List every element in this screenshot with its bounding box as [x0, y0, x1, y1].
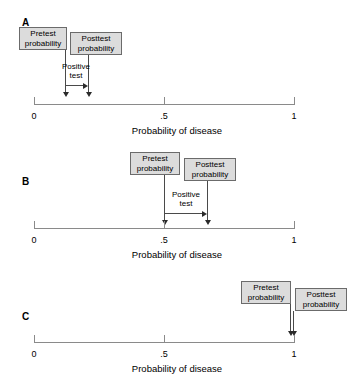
panel-b-pretest-box: Pretest probability — [130, 152, 180, 175]
panel-c-tick-label-0: 0 — [24, 350, 44, 359]
panel-c-posttest-box: Posttest probability — [295, 288, 347, 311]
panel-c-pretest-leader — [290, 304, 291, 334]
posttest-label-line1: Posttest — [71, 34, 121, 44]
panel-b-tick-1 — [294, 221, 295, 228]
pretest-label-line2: probability — [20, 39, 66, 49]
pretest-label-line1: Pretest — [20, 29, 66, 39]
panel-c-tick-label-1: 1 — [284, 350, 304, 359]
panel-a-tick-1 — [294, 97, 295, 104]
panel-a-tick-label-half: .5 — [154, 112, 174, 121]
posttest-label-line2: probability — [296, 300, 346, 310]
positive-test-line1: Positive — [46, 62, 106, 71]
posttest-label-line2: probability — [185, 170, 235, 180]
panel-a-positive-test-arrowhead — [83, 83, 88, 89]
panel-c-pretest-box: Pretest probability — [241, 281, 291, 304]
panel-b-tick-label-0: 0 — [24, 236, 44, 245]
panel-c-tick-0 — [34, 335, 35, 342]
panel-a-tick-label-0: 0 — [24, 112, 44, 121]
pretest-label-line1: Pretest — [131, 154, 179, 164]
panel-b: B Pretest probability Posttest probabili… — [0, 150, 354, 270]
panel-a: A Pretest probability Posttest probabili… — [0, 0, 354, 150]
panel-c-tick-1 — [294, 335, 295, 342]
panel-c: C Pretest probability Posttest probabili… — [0, 270, 354, 381]
panel-b-axis-line — [34, 228, 295, 229]
panel-b-letter: B — [22, 177, 29, 187]
panel-a-posttest-arrowhead — [86, 92, 92, 97]
panel-b-axis-caption: Probability of disease — [0, 250, 354, 260]
panel-b-positive-test-arrow-shaft — [165, 213, 202, 214]
panel-c-axis-line — [34, 342, 295, 343]
panel-b-posttest-box: Posttest probability — [184, 158, 236, 181]
panel-c-tick-label-half: .5 — [154, 350, 174, 359]
panel-a-axis-line — [34, 104, 295, 105]
pretest-label-line2: probability — [242, 293, 290, 303]
probability-of-disease-figure: A Pretest probability Posttest probabili… — [0, 0, 354, 381]
panel-c-tick-half — [164, 335, 165, 342]
panel-b-tick-0 — [34, 221, 35, 228]
panel-b-posttest-arrowhead — [205, 220, 211, 225]
panel-a-positive-test-arrow-shaft — [66, 85, 84, 86]
panel-a-tick-label-1: 1 — [284, 112, 304, 121]
posttest-label-line1: Posttest — [296, 290, 346, 300]
panel-b-tick-label-half: .5 — [154, 236, 174, 245]
panel-a-positive-test-label: Positive test — [46, 62, 106, 80]
pretest-label-line2: probability — [131, 164, 179, 174]
positive-test-line2: test — [46, 71, 106, 80]
panel-b-positive-test-label: Positive test — [156, 190, 216, 208]
panel-c-letter: C — [22, 312, 29, 322]
posttest-label-line1: Posttest — [185, 160, 235, 170]
panel-b-tick-label-1: 1 — [284, 236, 304, 245]
positive-test-line2: test — [156, 199, 216, 208]
panel-a-tick-0 — [34, 97, 35, 104]
panel-a-tick-half — [164, 97, 165, 104]
panel-c-axis-caption: Probability of disease — [0, 364, 354, 374]
pretest-label-line1: Pretest — [242, 283, 290, 293]
posttest-label-line2: probability — [71, 44, 121, 54]
panel-a-axis-caption: Probability of disease — [0, 126, 354, 136]
panel-b-tick-half — [164, 221, 165, 228]
positive-test-line1: Positive — [156, 190, 216, 199]
panel-a-pretest-box: Pretest probability — [19, 27, 67, 50]
panel-b-positive-test-arrowhead — [202, 211, 207, 217]
panel-a-pretest-arrowhead — [63, 92, 69, 97]
panel-a-posttest-box: Posttest probability — [70, 32, 122, 55]
